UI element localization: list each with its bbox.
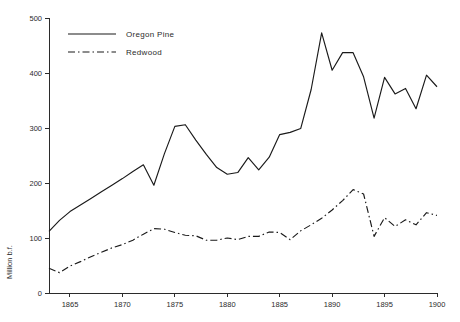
series-oregon-pine xyxy=(49,33,437,232)
y-tick-label: 0 xyxy=(38,289,42,298)
y-axis: 0100200300400500 xyxy=(29,14,49,298)
x-axis: 18651870187518801885189018951900 xyxy=(49,293,445,309)
x-tick-label: 1865 xyxy=(62,300,79,309)
y-axis-title: Million b.f. xyxy=(5,245,14,279)
series-redwood xyxy=(49,190,437,273)
y-tick-label: 300 xyxy=(29,124,42,133)
x-tick-label: 1880 xyxy=(219,300,236,309)
x-tick-label: 1890 xyxy=(324,300,341,309)
x-tick-label: 1885 xyxy=(271,300,288,309)
x-tick-label: 1895 xyxy=(376,300,393,309)
series-lines xyxy=(49,33,437,273)
x-tick-label: 1875 xyxy=(166,300,183,309)
y-tick-label: 100 xyxy=(29,234,42,243)
y-tick-label: 500 xyxy=(29,14,42,23)
y-tick-label: 200 xyxy=(29,179,42,188)
y-tick-label: 400 xyxy=(29,69,42,78)
line-chart: 0100200300400500 18651870187518801885189… xyxy=(0,0,460,322)
chart-container: 0100200300400500 18651870187518801885189… xyxy=(0,0,460,322)
chart-legend: Oregon PineRedwood xyxy=(68,30,174,57)
x-tick-label: 1870 xyxy=(114,300,131,309)
legend-label-redwood: Redwood xyxy=(126,48,162,57)
legend-label-oregon-pine: Oregon Pine xyxy=(126,30,174,39)
x-tick-label: 1900 xyxy=(429,300,446,309)
